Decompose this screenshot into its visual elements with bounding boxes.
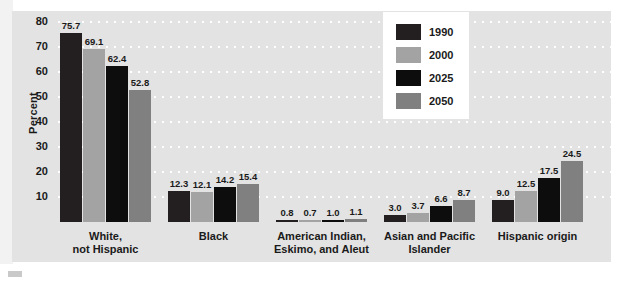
bar-2000-5 [515,191,537,222]
bar-2025-4 [430,206,452,223]
y-tick-label-50: 50 [22,91,48,102]
bar-2025-5 [538,178,560,222]
gridline-60 [55,71,611,73]
legend-swatch-2025 [396,70,421,86]
legend-swatch-2050 [396,93,421,109]
bar-value-label-2050-1: 52.8 [124,78,156,88]
legend-label-2000: 2000 [429,49,453,61]
bar-2050-1 [129,90,151,222]
y-tick-label-70: 70 [22,41,48,52]
legend-swatch-1990 [396,24,421,40]
legend-swatch-2000 [396,47,421,63]
bar-1990-2 [168,191,190,222]
plot-area: Percent 1020304050607080 75.769.162.452.… [12,11,611,262]
bar-1990-1 [60,33,82,222]
bar-value-label-2050-3: 1.1 [340,207,372,217]
bar-value-label-1990-1: 75.7 [55,21,87,31]
y-tick-label-60: 60 [22,66,48,77]
legend-label-1990: 1990 [429,26,453,38]
legend-label-2025: 2025 [429,72,453,84]
gridline-70 [55,46,611,48]
bar-2025-3 [322,220,344,223]
bar-value-label-2050-2: 15.4 [232,172,264,182]
bar-value-label-2050-5: 24.5 [556,149,588,159]
bar-value-label-2025-1: 62.4 [101,54,133,64]
y-tick-label-40: 40 [22,116,48,127]
corner-mark [8,271,22,277]
bar-2000-2 [191,192,213,222]
bar-2000-3 [299,220,321,222]
bar-value-label-2050-4: 8.7 [448,188,480,198]
bar-2050-2 [237,184,259,223]
chart-legend: 1990200020252050 [383,12,469,119]
gridline-80 [55,21,611,23]
bar-value-label-2000-1: 69.1 [78,37,110,47]
category-label-5: Hispanic origin [468,230,608,243]
y-tick-label-20: 20 [22,166,48,177]
y-axis-title: Percent [27,78,39,148]
y-tick-label-80: 80 [22,16,48,27]
y-tick-label-10: 10 [22,191,48,202]
bar-2050-3 [345,219,367,222]
bar-1990-5 [492,200,514,223]
bar-1990-4 [384,215,406,223]
bar-2050-4 [453,200,475,222]
bar-2025-1 [106,66,128,222]
bar-2025-2 [214,187,236,223]
legend-label-2050: 2050 [429,95,453,107]
bar-1990-3 [276,220,298,222]
bar-2000-1 [83,49,105,222]
chart-figure: Percent 1020304050607080 75.769.162.452.… [0,0,623,281]
bar-2050-5 [561,161,583,222]
bar-2000-4 [407,213,429,222]
y-tick-label-30: 30 [22,141,48,152]
